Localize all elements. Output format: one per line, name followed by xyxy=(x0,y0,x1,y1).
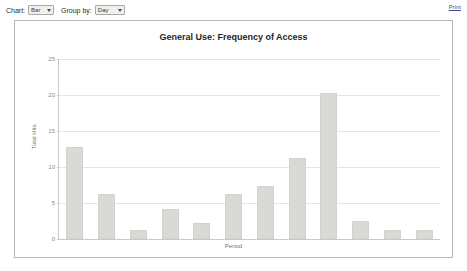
bar[interactable] xyxy=(289,158,306,239)
y-tick-label: 20 xyxy=(48,92,55,98)
plot-area: 0510152025 xyxy=(59,59,440,239)
chart-panel: General Use: Frequency of Access Total H… xyxy=(14,20,453,258)
bar[interactable] xyxy=(193,223,210,239)
bar[interactable] xyxy=(98,194,115,239)
chart-type-select[interactable]: Bar xyxy=(28,5,54,15)
bar[interactable] xyxy=(66,147,83,239)
bar-series xyxy=(59,59,440,239)
y-tick-label: 25 xyxy=(48,56,55,62)
y-tick-label: 5 xyxy=(52,200,55,206)
bar[interactable] xyxy=(352,221,369,239)
bar[interactable] xyxy=(416,230,433,239)
bar[interactable] xyxy=(384,230,401,239)
x-axis-title: Period xyxy=(15,243,452,249)
y-tick-mark xyxy=(57,239,59,240)
chevron-down-icon xyxy=(47,9,51,12)
bar[interactable] xyxy=(257,186,274,239)
bar[interactable] xyxy=(162,209,179,239)
y-tick-label: 0 xyxy=(52,236,55,242)
print-link[interactable]: Print xyxy=(449,4,461,10)
chevron-down-icon xyxy=(118,9,122,12)
bar[interactable] xyxy=(320,93,337,239)
chart-title: General Use: Frequency of Access xyxy=(15,32,452,42)
group-by-select[interactable]: Day xyxy=(95,5,125,15)
x-axis-line xyxy=(58,239,440,240)
bar[interactable] xyxy=(225,194,242,239)
chart-type-value: Bar xyxy=(31,5,40,15)
y-axis-title: Total Hits xyxy=(31,124,37,149)
y-tick-label: 15 xyxy=(48,128,55,134)
chart-type-label: Chart: xyxy=(6,7,25,14)
bar[interactable] xyxy=(130,230,147,239)
y-tick-label: 10 xyxy=(48,164,55,170)
chart-toolbar: Chart: Bar Group by: Day Print xyxy=(0,0,467,20)
group-by-label: Group by: xyxy=(61,7,92,14)
group-by-value: Day xyxy=(98,5,109,15)
